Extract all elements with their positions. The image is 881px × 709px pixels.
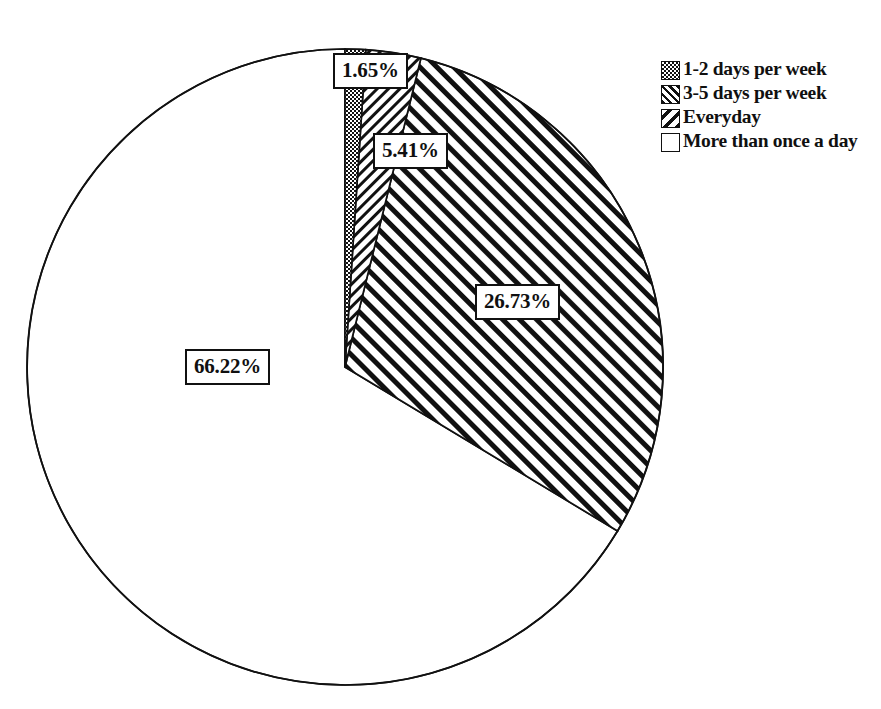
legend-item-more-than-once-a-day: More than once a day	[661, 130, 879, 152]
legend-swatch-blank-icon	[661, 133, 680, 152]
data-label-1-2-days-per-week: 1.65%	[333, 53, 408, 89]
legend-item-1-2-days-per-week: 1-2 days per week	[661, 58, 879, 80]
legend-item-everyday: Everyday	[661, 106, 879, 128]
data-label-everyday: 26.73%	[475, 284, 560, 320]
legend-swatch-hatch-backward-icon	[661, 109, 680, 128]
legend-label-1-2-days-per-week: 1-2 days per week	[683, 58, 827, 79]
data-label-3-5-days-per-week: 5.41%	[373, 133, 448, 169]
legend-swatch-dots-icon	[661, 61, 680, 80]
legend-item-3-5-days-per-week: 3-5 days per week	[661, 82, 879, 104]
data-label-more-than-once-a-day: 66.22%	[185, 349, 270, 385]
legend-label-everyday: Everyday	[683, 106, 761, 127]
legend-label-3-5-days-per-week: 3-5 days per week	[683, 82, 827, 103]
pie-chart-figure: 1.65% 5.41% 26.73% 66.22% 1-2 days per w…	[0, 0, 881, 709]
legend-swatch-hatch-forward-icon	[661, 85, 680, 104]
legend-label-more-than-once-a-day: More than once a day	[683, 130, 858, 151]
chart-legend: 1-2 days per week 3-5 days per week Ever…	[661, 58, 879, 154]
